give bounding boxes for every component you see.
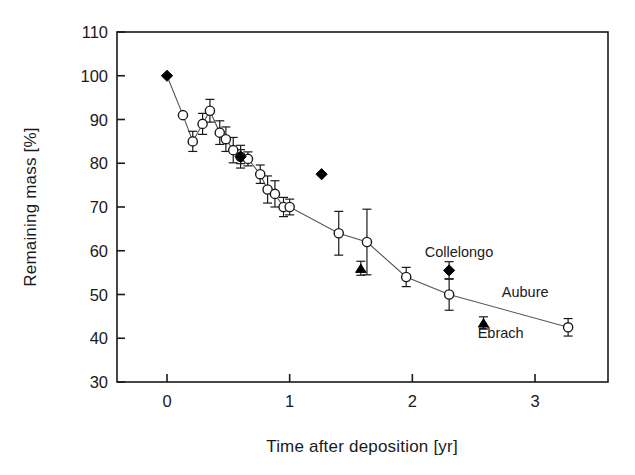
y-tick-label: 70 bbox=[90, 198, 108, 216]
marker-open-circle-aubure bbox=[198, 119, 207, 128]
annotation-label-aubure: Aubure bbox=[502, 284, 549, 300]
y-tick-label: 30 bbox=[90, 373, 108, 391]
marker-open-circle-aubure bbox=[564, 323, 573, 332]
x-tick-label: 3 bbox=[530, 392, 539, 410]
marker-open-circle-aubure bbox=[270, 189, 279, 198]
y-tick-label: 110 bbox=[82, 23, 108, 41]
marker-open-circle-aubure bbox=[221, 135, 230, 144]
annotation-label-collelongo: Collelongo bbox=[425, 244, 494, 260]
y-tick-label: 80 bbox=[90, 154, 108, 172]
annotation-label-ebrach: Ebrach bbox=[478, 325, 524, 341]
decomposition-chart: 30405060708090100110 0123 CollelongoAubu… bbox=[0, 0, 635, 475]
y-tick-label: 100 bbox=[80, 67, 108, 85]
marker-open-circle-aubure bbox=[334, 229, 343, 238]
x-axis-title: Time after deposition [yr] bbox=[266, 437, 458, 456]
marker-open-circle-aubure bbox=[205, 106, 214, 115]
marker-open-circle-aubure bbox=[445, 290, 454, 299]
marker-filled-diamond-collelongo bbox=[444, 265, 455, 276]
marker-open-circle-aubure bbox=[402, 272, 411, 281]
y-tick-label: 90 bbox=[90, 111, 108, 129]
y-axis-ticks: 30405060708090100110 bbox=[80, 23, 125, 391]
x-tick-label: 2 bbox=[408, 392, 417, 410]
marker-open-circle-aubure bbox=[285, 202, 294, 211]
y-tick-label: 40 bbox=[90, 329, 108, 347]
marker-open-circle-aubure bbox=[229, 146, 238, 155]
marker-open-circle-aubure bbox=[188, 137, 197, 146]
x-tick-label: 1 bbox=[285, 392, 294, 410]
marker-open-circle-aubure bbox=[256, 170, 265, 179]
y-axis-title: Remaining mass [%] bbox=[21, 127, 40, 287]
y-tick-label: 50 bbox=[90, 286, 108, 304]
marker-open-circle-aubure bbox=[178, 111, 187, 120]
site-annotations: CollelongoAubureEbrach bbox=[425, 244, 549, 341]
marker-open-circle-aubure bbox=[362, 237, 371, 246]
x-tick-label: 0 bbox=[162, 392, 171, 410]
plot-border bbox=[117, 32, 608, 382]
plot-frame bbox=[117, 32, 608, 382]
error-bars bbox=[188, 99, 572, 336]
marker-filled-triangle-ebrach bbox=[356, 264, 366, 272]
marker-filled-diamond-collelongo bbox=[316, 169, 327, 180]
x-axis-ticks: 0123 bbox=[162, 374, 539, 410]
y-tick-label: 60 bbox=[90, 242, 108, 260]
marker-filled-diamond-collelongo bbox=[161, 70, 172, 81]
